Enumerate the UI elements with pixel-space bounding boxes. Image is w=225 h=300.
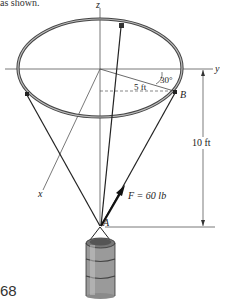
x-axis-line: [43, 69, 100, 190]
point-b-label: B: [180, 89, 186, 100]
radius-label: 5 ft: [134, 82, 147, 92]
dimension-arrow-bottom: [201, 220, 205, 226]
z-axis-label: z: [95, 0, 100, 10]
force-label-text: F = 60 lb: [127, 190, 166, 201]
ring-drum-diagram: as shown. y z x 30° 5 ft B F = 60 lb A 1…: [0, 0, 225, 300]
y-axis-label: y: [214, 63, 220, 74]
caption-text: as shown.: [0, 0, 39, 8]
dimension-arrow-top: [201, 70, 205, 76]
force-arrow-head: [116, 185, 125, 196]
cable-left: [27, 95, 100, 226]
drum: [86, 238, 115, 299]
x-axis-label: x: [37, 188, 43, 199]
drum-contents: [90, 239, 112, 246]
angle-label: 30°: [160, 75, 173, 85]
height-label: 10 ft: [192, 137, 211, 148]
force-label: F = 60 lb: [127, 190, 166, 201]
page-number: 68: [0, 282, 17, 299]
point-a-label: A: [102, 217, 110, 228]
drum-highlight: [90, 245, 95, 295]
